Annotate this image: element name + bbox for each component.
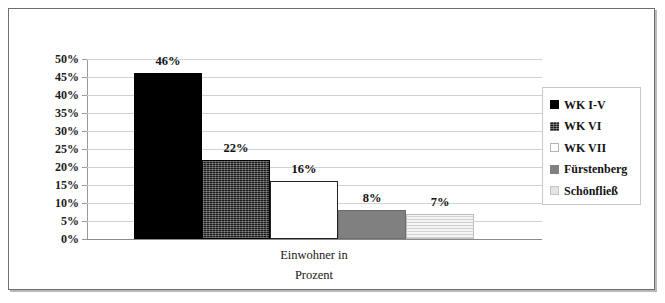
y-axis-tick-label: 40% (33, 89, 79, 101)
y-axis-tick-label: 25% (33, 143, 79, 155)
legend-item-label: WK VII (564, 142, 606, 154)
y-axis-tick-label: 10% (33, 197, 79, 209)
y-axis-tick (82, 239, 87, 240)
bar-wk-vii (270, 181, 338, 239)
bar-value-label: 46% (134, 55, 202, 68)
plot-area (87, 59, 542, 239)
bar-wk-vi (202, 160, 270, 239)
y-axis-tick (82, 131, 87, 132)
bar-f-rstenberg (338, 210, 406, 239)
x-axis-title-line-1: Einwohner in (199, 245, 429, 265)
legend-swatch-icon (550, 122, 559, 131)
legend-swatch-icon (550, 100, 559, 109)
legend-item[interactable]: Schönfließ (550, 180, 640, 202)
y-axis-tick (82, 59, 87, 60)
y-axis-tick-label: 50% (33, 53, 79, 65)
y-axis-tick (82, 149, 87, 150)
legend-item[interactable]: Fürstenberg (550, 159, 640, 181)
legend-item-label: WK VI (564, 120, 601, 132)
x-axis-title: Einwohner in Prozent (199, 245, 429, 285)
chart-legend: WK I-VWK VIWK VIIFürstenbergSchönfließ (542, 87, 641, 205)
y-axis-tick-label: 15% (33, 179, 79, 191)
legend-swatch-icon (550, 165, 559, 174)
y-axis-tick-label: 20% (33, 161, 79, 173)
bar-value-label: 16% (270, 163, 338, 176)
legend-item[interactable]: WK VI (550, 116, 640, 138)
y-axis-tick (82, 221, 87, 222)
bar-value-label: 22% (202, 142, 270, 155)
y-axis-tick (82, 203, 87, 204)
legend-item[interactable]: WK I-V (550, 94, 640, 116)
y-axis-tick-label: 35% (33, 107, 79, 119)
legend-swatch-icon (550, 186, 559, 195)
y-axis-tick-label: 30% (33, 125, 79, 137)
y-axis-tick (82, 185, 87, 186)
bar-wk-i-v (134, 73, 202, 239)
legend-item-label: Fürstenberg (564, 163, 627, 175)
bar-value-label: 8% (338, 192, 406, 205)
chart-figure-frame: 50%45%40%35%30%25%20%15%10%5%0% 46%22%16… (8, 8, 655, 290)
y-axis-tick (82, 77, 87, 78)
legend-item[interactable]: WK VII (550, 137, 640, 159)
legend-item-label: WK I-V (564, 99, 606, 111)
y-axis-tick-label: 5% (33, 215, 79, 227)
bar-sch-nflie (406, 214, 474, 239)
y-axis-tick-label: 45% (33, 71, 79, 83)
y-axis-tick (82, 167, 87, 168)
bar-value-label: 7% (406, 196, 474, 209)
gridline (87, 239, 542, 240)
y-axis-labels: 50%45%40%35%30%25%20%15%10%5%0% (29, 9, 79, 303)
x-axis-title-line-2: Prozent (199, 265, 429, 285)
legend-swatch-icon (550, 143, 559, 152)
legend-item-label: Schönfließ (564, 185, 618, 197)
y-axis-tick-label: 0% (33, 233, 79, 245)
y-axis-tick (82, 113, 87, 114)
y-axis-tick (82, 95, 87, 96)
